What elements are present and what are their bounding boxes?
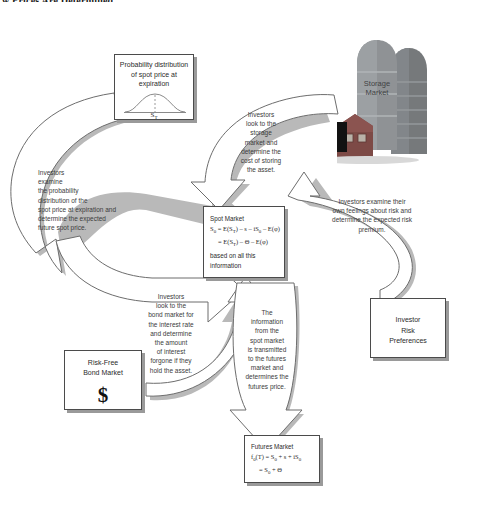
arrow-storage-to-spot-label: Investors look to the storage market and…: [218, 110, 304, 174]
arrow-spot-to-futures-label: The information from the spot market is …: [232, 308, 302, 391]
storage-market-illustration: Storage Market: [337, 38, 465, 168]
bond-box-line-2: Bond Market: [65, 368, 141, 378]
probability-axis-label: ST: [115, 111, 193, 120]
investor-risk-preferences-box: Investor Risk Preferences: [370, 298, 446, 358]
arrow-risk-to-spot-shape: [288, 172, 416, 308]
storage-market-label-line-2: Market: [366, 88, 390, 97]
spot-market-note-2: information: [210, 261, 279, 271]
risk-box-line-2: Risk: [371, 326, 445, 337]
futures-market-formula-1: f0(T) = S0 + s + iS0: [251, 452, 314, 465]
arrow-risk-to-spot-label: Investors examine their own feelings abo…: [296, 197, 448, 234]
risk-box-line-1: Investor: [371, 315, 445, 326]
risk-box-line-3: Preferences: [371, 336, 445, 347]
risk-free-bond-market-box: Risk-Free Bond Market $: [64, 350, 142, 410]
futures-market-title: Futures Market: [251, 442, 314, 452]
arrow-probability-to-spot-label: Investors examine the probability distri…: [34, 168, 206, 232]
spot-market-formula-2: = E(ST) – Θ – E(φ): [210, 237, 279, 250]
dollar-sign-icon: $: [65, 385, 141, 406]
figure-canvas: w Prices Are Determined: [0, 0, 496, 507]
probability-distribution-box: Probability distribution of spot price a…: [114, 54, 194, 120]
storage-market-label-line-1: Storage: [364, 79, 390, 88]
trailer-icon: [337, 122, 347, 152]
spot-market-note-1: based on all this: [210, 251, 279, 261]
spot-market-title: Spot Market: [210, 214, 279, 224]
spot-market-box: Spot Market S0 = E(ST) – s – iS0 – E(φ) …: [203, 206, 285, 278]
futures-market-box: Futures Market f0(T) = S0 + s + iS0 = S0…: [244, 435, 320, 483]
bond-box-line-1: Risk-Free: [65, 358, 141, 368]
spot-market-formula-1: S0 = E(ST) – s – iS0 – E(φ): [210, 224, 279, 237]
futures-market-formula-2: = S0 + Θ: [251, 465, 314, 478]
probability-box-title: Probability distribution of spot price a…: [115, 55, 193, 89]
